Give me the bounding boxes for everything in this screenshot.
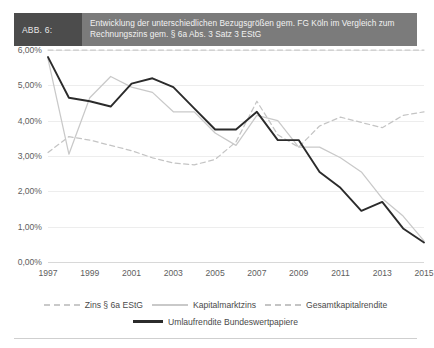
series-line	[48, 57, 424, 243]
legend-item-zins: Zins § 6a EStG	[44, 300, 143, 310]
x-axis-tick-label: 2001	[122, 268, 141, 278]
data-lines	[48, 50, 424, 262]
figure-caption-bar: ABB. 6: Entwicklung der unterschiedliche…	[14, 13, 417, 46]
plot-area: 6,00%5,00%4,00%3,00%2,00%1,00%0,00% 1997…	[0, 50, 431, 295]
legend-label-umlaufrendite: Umlaufrendite Bundeswertpapiere	[168, 317, 298, 327]
y-axis-tick-label: 3,00%	[18, 151, 42, 161]
y-axis-tick-label: 2,00%	[18, 186, 42, 196]
x-axis-tick-label: 2007	[247, 268, 266, 278]
x-axis-tick-label: 1999	[80, 268, 99, 278]
dashed-line-icon	[44, 304, 80, 306]
chart-legend: Zins § 6a EStG Kapitalmarktzins Gesamtka…	[0, 296, 431, 330]
y-axis-tick-label: 0,00%	[18, 257, 42, 267]
legend-label-zins: Zins § 6a EStG	[85, 300, 143, 310]
y-axis-tick-label: 1,00%	[18, 222, 42, 232]
legend-row-secondary: Umlaufrendite Bundeswertpapiere	[0, 313, 431, 330]
y-axis-tick-label: 4,00%	[18, 116, 42, 126]
solid-line-icon	[152, 304, 188, 306]
gridline	[48, 262, 424, 263]
y-axis-tick-label: 6,00%	[18, 45, 42, 55]
figure-number-label: ABB. 6:	[14, 13, 82, 46]
x-axis-tick-label: 2015	[414, 268, 433, 278]
x-axis-tick-label: 2009	[289, 268, 308, 278]
y-axis-labels: 6,00%5,00%4,00%3,00%2,00%1,00%0,00%	[0, 50, 46, 262]
legend-label-kapitalmarktzins: Kapitalmarktzins	[193, 300, 256, 310]
x-axis-tick-label: 1997	[38, 268, 57, 278]
x-axis-tick-label: 2011	[331, 268, 349, 278]
series-line	[48, 59, 424, 241]
legend-item-kapitalmarktzins: Kapitalmarktzins	[152, 300, 256, 310]
series-line	[48, 101, 424, 165]
legend-item-gesamtkapitalrendite: Gesamtkapitalrendite	[265, 300, 387, 310]
x-axis-tick-label: 2013	[373, 268, 392, 278]
legend-row-primary: Zins § 6a EStG Kapitalmarktzins Gesamtka…	[0, 296, 431, 313]
legend-label-gesamtkapitalrendite: Gesamtkapitalrendite	[306, 300, 387, 310]
dashed-line-icon	[265, 304, 301, 306]
y-axis-tick-label: 5,00%	[18, 80, 42, 90]
x-axis-labels: 1997199920012003200520072009201120132015	[48, 264, 424, 286]
legend-divider	[14, 338, 417, 339]
x-axis-tick-label: 2005	[206, 268, 225, 278]
figure-title: Entwicklung der unterschiedlichen Bezugs…	[82, 13, 417, 46]
legend-item-umlaufrendite: Umlaufrendite Bundeswertpapiere	[133, 317, 298, 327]
x-axis-tick-label: 2003	[164, 268, 183, 278]
solid-line-icon	[133, 320, 163, 323]
